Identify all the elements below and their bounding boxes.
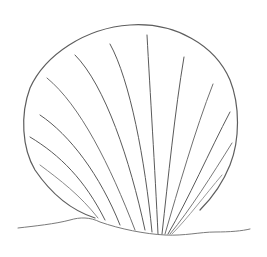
rib-9 xyxy=(165,84,213,234)
rib-10 xyxy=(168,112,230,234)
rib-1 xyxy=(40,165,98,218)
shell-outline xyxy=(24,25,238,218)
shell-ribs xyxy=(30,35,232,234)
rib-3 xyxy=(40,115,120,225)
rib-11 xyxy=(170,143,232,234)
rib-4 xyxy=(47,78,135,230)
rib-6 xyxy=(110,44,152,232)
sketch-canvas xyxy=(0,0,267,257)
scallop-shell-drawing xyxy=(0,0,267,257)
